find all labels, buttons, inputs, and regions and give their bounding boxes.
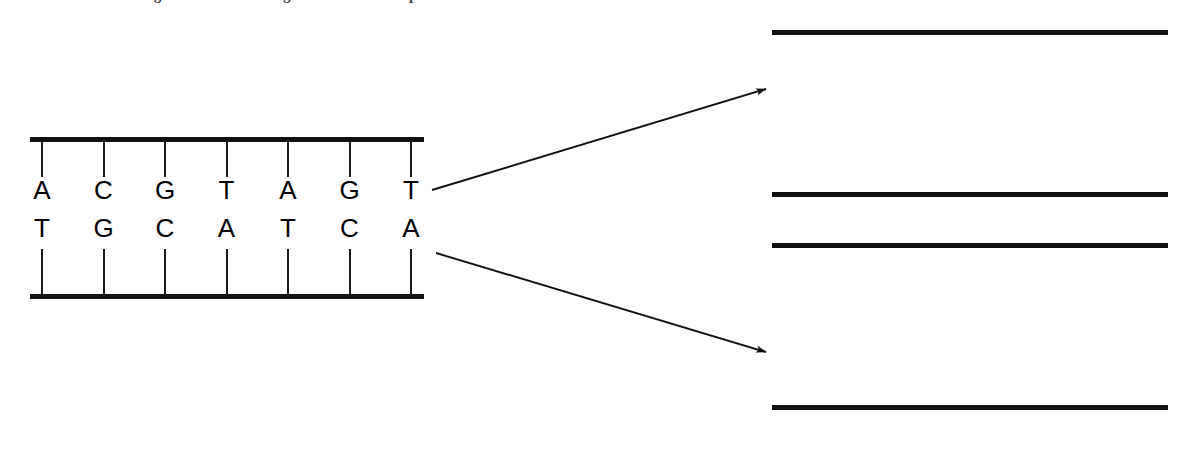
backbone-bottom — [772, 405, 1168, 410]
daughter-duplex-1 — [772, 30, 1168, 197]
strand-daughter2-top — [772, 283, 1168, 313]
daughter-duplex-2 — [772, 243, 1168, 410]
base-letter: A — [28, 175, 56, 205]
base-letter: A — [397, 213, 425, 243]
base-letter: G — [336, 175, 364, 205]
base-tick-bottom — [287, 249, 289, 295]
strand-parent-bottom: TGCATCA — [30, 213, 424, 243]
base-letter: A — [213, 213, 241, 243]
strand-parent-top: ACGTAGT — [30, 175, 424, 205]
clipped-running-text: the right and the resulting new structur… — [0, 0, 1189, 14]
base-letter: G — [90, 213, 118, 243]
backbone-top — [772, 30, 1168, 35]
base-letter: T — [274, 213, 302, 243]
base-tick-top — [226, 141, 228, 177]
base-letter: T — [397, 175, 425, 205]
backbone-top — [772, 243, 1168, 248]
clipped-running-text-line: the right and the resulting new structur… — [118, 0, 1078, 4]
base-tick-top — [164, 141, 166, 177]
parental-duplex: ACGTAGT TGCATCA — [30, 137, 424, 299]
base-letter: T — [28, 213, 56, 243]
strand-daughter2-bottom — [772, 323, 1168, 353]
base-letter: C — [151, 213, 179, 243]
base-tick-bottom — [103, 249, 105, 295]
base-tick-bottom — [349, 249, 351, 295]
arrow-lower — [436, 253, 766, 352]
base-tick-top — [349, 141, 351, 177]
base-letter: G — [151, 175, 179, 205]
base-tick-bottom — [164, 249, 166, 295]
strand-daughter1-top — [772, 70, 1168, 100]
base-letter: T — [213, 175, 241, 205]
base-tick-top — [41, 141, 43, 177]
base-tick-top — [410, 141, 412, 177]
base-tick-top — [103, 141, 105, 177]
arrow-upper — [432, 89, 766, 190]
base-tick-bottom — [410, 249, 412, 295]
base-letter: C — [90, 175, 118, 205]
backbone-bottom — [772, 192, 1168, 197]
strand-daughter1-bottom — [772, 110, 1168, 140]
base-tick-top — [287, 141, 289, 177]
base-letter: A — [274, 175, 302, 205]
base-tick-bottom — [41, 249, 43, 295]
dna-replication-figure: the right and the resulting new structur… — [0, 0, 1189, 450]
base-tick-bottom — [226, 249, 228, 295]
base-letter: C — [336, 213, 364, 243]
